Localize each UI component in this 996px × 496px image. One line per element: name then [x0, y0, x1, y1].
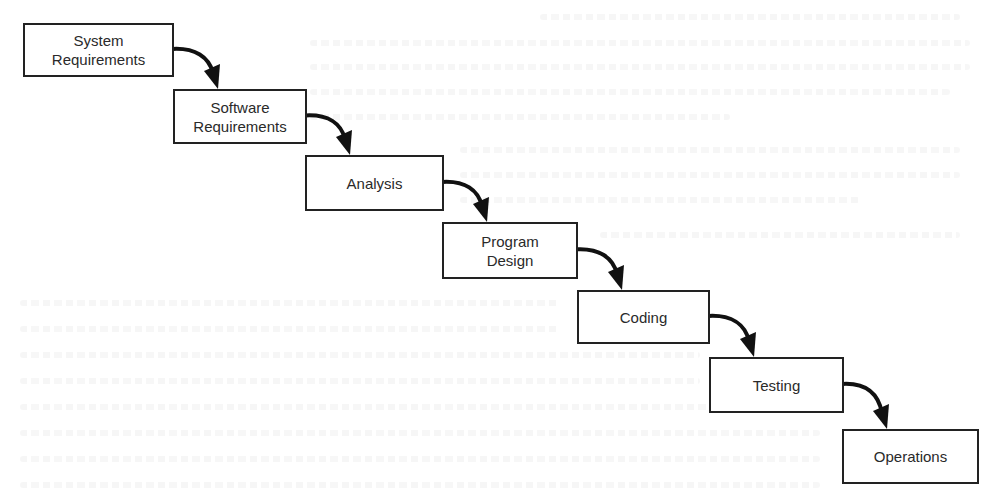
connector-arrow: [173, 49, 213, 73]
stage-label: Analysis: [347, 174, 403, 193]
stage-software-requirements: Software Requirements: [173, 89, 307, 144]
stage-analysis: Analysis: [305, 155, 444, 211]
arrowhead-icon: [204, 64, 220, 89]
stage-system-requirements: System Requirements: [23, 23, 174, 77]
connector-arrow: [577, 249, 617, 274]
arrowhead-icon: [873, 404, 889, 429]
stage-operations: Operations: [842, 429, 979, 484]
arrowhead-icon: [740, 332, 756, 357]
connector-arrow: [443, 182, 482, 206]
connector-arrow: [709, 316, 749, 341]
connector-arrow: [843, 384, 882, 413]
arrowhead-icon: [608, 265, 624, 290]
stage-label: Program Design: [481, 232, 539, 270]
arrowhead-icon: [473, 197, 489, 222]
arrowhead-icon: [336, 130, 352, 155]
stage-label: Operations: [874, 447, 947, 466]
stage-label: Coding: [620, 308, 668, 327]
connector-arrow: [306, 115, 345, 139]
stage-label: Testing: [753, 376, 801, 395]
stage-label: System Requirements: [52, 31, 145, 69]
stage-label: Software Requirements: [193, 98, 286, 136]
stage-testing: Testing: [709, 357, 844, 413]
stage-coding: Coding: [577, 290, 710, 344]
stage-program-design: Program Design: [442, 222, 578, 279]
